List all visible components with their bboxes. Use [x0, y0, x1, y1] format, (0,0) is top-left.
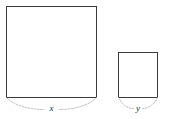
large-square-shape — [6, 6, 97, 98]
small-square-shape — [118, 52, 158, 98]
geometry-figure: x y — [0, 0, 169, 119]
large-square-side-label: x — [6, 103, 97, 113]
small-square-side-label: y — [118, 103, 158, 113]
